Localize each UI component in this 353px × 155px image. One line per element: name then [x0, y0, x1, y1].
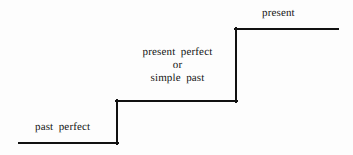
step-label-present-perfect-or-simple-past: present perfect or simple past: [117, 46, 238, 85]
staircase-diagram: past perfect present perfect or simple p…: [0, 0, 353, 155]
step-label-present-perfect: present perfect: [117, 46, 238, 59]
step-label-or: or: [117, 59, 238, 72]
step-label-present: present: [262, 7, 295, 20]
step-label-past-perfect: past perfect: [35, 121, 90, 134]
step-label-simple-past: simple past: [117, 72, 238, 85]
